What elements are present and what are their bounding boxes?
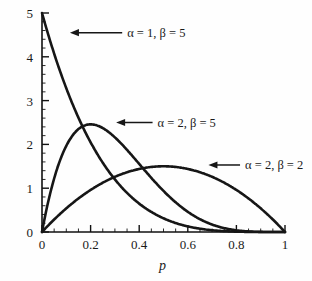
annot-beta-1-5-label: α = 1, β = 5 — [127, 26, 185, 40]
x-axis-title: p — [158, 258, 166, 273]
annot-beta-2-5-arrow-head — [116, 119, 125, 126]
curve-2-2 — [42, 166, 285, 232]
x-tick-label-0.4: 0.4 — [131, 237, 148, 252]
curve-2-5 — [42, 124, 285, 232]
y-tick-label-0: 0 — [27, 225, 34, 240]
y-tick-label-1: 1 — [27, 181, 34, 196]
x-tick-label-1: 1 — [282, 237, 289, 252]
annot-beta-1-5-arrow-head — [70, 29, 79, 36]
annot-beta-2-5-label: α = 2, β = 5 — [158, 116, 216, 130]
annot-beta-2-2-arrow-head — [208, 161, 217, 168]
beta-pdf-plot: 012345 00.20.40.60.81 α = 1, β = 5α = 2,… — [0, 0, 312, 281]
x-tick-label-0.2: 0.2 — [82, 237, 98, 252]
x-tick-label-0.6: 0.6 — [180, 237, 197, 252]
x-axis-tick-labels: 00.20.40.60.81 — [39, 237, 289, 252]
x-tick-label-0: 0 — [39, 237, 46, 252]
beta-distribution-chart-page: 012345 00.20.40.60.81 α = 1, β = 5α = 2,… — [0, 0, 312, 281]
y-tick-label-3: 3 — [27, 94, 34, 109]
curve-annotations: α = 1, β = 5α = 2, β = 5α = 2, β = 2 — [70, 26, 303, 172]
x-tick-label-0.8: 0.8 — [228, 237, 244, 252]
y-tick-label-2: 2 — [27, 137, 34, 152]
annot-beta-2-2-label: α = 2, β = 2 — [245, 158, 303, 172]
y-axis-tick-labels: 012345 — [27, 6, 34, 240]
y-tick-label-4: 4 — [27, 50, 34, 65]
y-tick-label-5: 5 — [27, 6, 34, 21]
